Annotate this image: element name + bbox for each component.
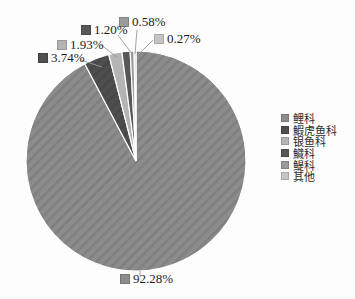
legend: 鲤科 鰕虎鱼科 银鱼科 鱵科 鳀科 其他	[281, 112, 337, 182]
slice-label-text: 92.28%	[133, 271, 173, 287]
legend-swatch	[281, 149, 289, 157]
pie-chart-figure: 0.58% 0.27% 1.20% 1.93% 3.74% 92.28% 鲤科 …	[0, 0, 355, 299]
legend-swatch	[281, 114, 289, 122]
legend-swatch	[281, 137, 289, 145]
legend-item: 其他	[281, 170, 337, 182]
slice-swatch	[120, 274, 130, 284]
legend-swatch	[281, 172, 289, 180]
slice-label-3.74: 3.74%	[38, 50, 85, 66]
legend-swatch	[281, 126, 289, 134]
slice-label-0.27: 0.27%	[154, 31, 201, 47]
legend-swatch	[281, 161, 289, 169]
slice-label-text: 3.74%	[51, 50, 85, 66]
slice-swatch	[154, 34, 164, 44]
slice-label-text: 0.58%	[132, 14, 166, 30]
slice-swatch	[38, 53, 48, 63]
slice-swatch	[57, 40, 67, 50]
slice-label-text: 1.20%	[94, 22, 128, 38]
slice-label-text: 0.27%	[167, 31, 201, 47]
slice-swatch	[81, 25, 91, 35]
legend-label: 其他	[293, 168, 315, 184]
slice-label-92.28: 92.28%	[120, 271, 173, 287]
slice-label-1.20: 1.20%	[81, 22, 128, 38]
